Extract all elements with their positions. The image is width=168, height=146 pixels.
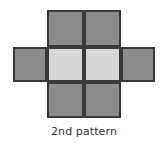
pattern-cell-mid-far-left: [13, 47, 47, 82]
pattern-cell-mid-left: [47, 47, 84, 82]
pattern-cell-mid-right: [84, 47, 121, 82]
pattern-cell-top-left: [47, 10, 84, 47]
pattern-grid: [0, 0, 168, 122]
pattern-cell-bottom-left: [47, 82, 84, 118]
pattern-cell-bottom-right: [84, 82, 121, 118]
pattern-caption: 2nd pattern: [0, 125, 168, 138]
pattern-cell-top-right: [84, 10, 121, 47]
pattern-figure: 2nd pattern: [0, 0, 168, 146]
pattern-cell-mid-far-right: [121, 47, 155, 82]
